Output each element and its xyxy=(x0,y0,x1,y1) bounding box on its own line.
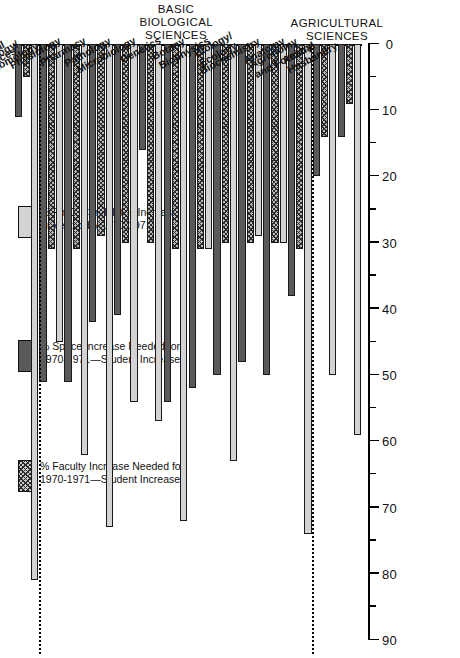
axis-tick-label: 0 xyxy=(386,37,393,52)
chart-figure: % Ph.D. Candidates IncreaseProjected by … xyxy=(0,0,460,658)
axis-minor-tick xyxy=(368,142,376,143)
axis-tick-label: 60 xyxy=(382,434,397,449)
axis-tick xyxy=(368,175,379,176)
axis-tick xyxy=(368,109,379,110)
section-title: AGRICULTURAL SCIENCES xyxy=(291,17,384,43)
axis-tick xyxy=(368,241,379,242)
axis-tick-label: 70 xyxy=(382,500,397,515)
axis-minor-tick xyxy=(368,407,376,408)
axis-tick-label: 80 xyxy=(382,566,397,581)
axis-minor-tick xyxy=(368,473,376,474)
axis-minor-tick xyxy=(368,76,376,77)
axis-tick-label: 20 xyxy=(382,169,397,184)
axis-tick xyxy=(368,506,379,507)
value-axis-ticks xyxy=(368,44,382,640)
axis-minor-tick xyxy=(368,208,376,209)
axis-tick xyxy=(368,639,379,640)
axis-tick-label: 40 xyxy=(382,301,397,316)
axis-tick-label: 30 xyxy=(382,235,397,250)
axis-tick xyxy=(368,374,379,375)
axis-tick xyxy=(368,572,379,573)
value-axis-tick-labels: 0102030405060708090 xyxy=(382,44,416,640)
axis-tick xyxy=(368,308,379,309)
axis-tick-label: 90 xyxy=(382,633,397,648)
section-title: BASIC BIOLOGICAL SCIENCES xyxy=(139,3,212,42)
axis-minor-tick xyxy=(368,274,376,275)
axis-minor-tick xyxy=(368,341,376,342)
axis-tick xyxy=(368,440,379,441)
axis-minor-tick xyxy=(368,539,376,540)
chart-rotated-canvas: % Ph.D. Candidates IncreaseProjected by … xyxy=(0,0,460,658)
axis-tick-label: 50 xyxy=(382,368,397,383)
axis-rule xyxy=(368,44,370,640)
category-axis-labels: Animal HusbandryAgronomy and ForestryAna… xyxy=(0,44,350,640)
axis-minor-tick xyxy=(368,606,376,607)
bar-phd xyxy=(354,44,361,435)
axis-tick-label: 10 xyxy=(382,103,397,118)
